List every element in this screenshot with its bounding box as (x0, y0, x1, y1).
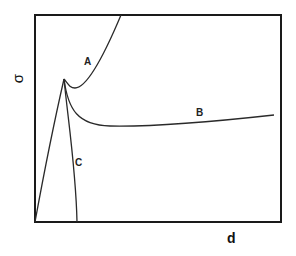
curve-c (64, 79, 77, 222)
curve-rising-branch (35, 79, 64, 222)
curve-b-label: B (196, 107, 203, 118)
x-axis-label: d (227, 230, 236, 246)
curve-a (64, 15, 121, 88)
y-axis-label: σ (9, 74, 26, 83)
curve-a-label: A (84, 56, 91, 67)
stress-thickness-diagram (0, 0, 296, 256)
curve-b (64, 79, 274, 126)
curve-c-label: C (75, 157, 82, 168)
